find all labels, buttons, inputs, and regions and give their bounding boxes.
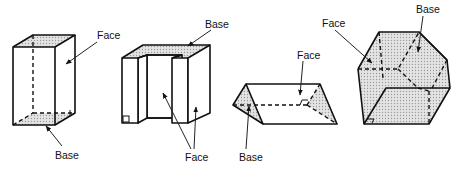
hexagonal-prism <box>335 16 450 124</box>
rectangular-prism <box>13 35 97 146</box>
prism-drawings <box>0 0 463 172</box>
label-base-u-shaped: Base <box>205 19 229 30</box>
prism-diagram: Face Base Base Face Face Base Face Base <box>0 0 463 172</box>
label-base-rectangular: Base <box>55 150 79 161</box>
u-shaped-prism <box>122 30 211 149</box>
label-face-rectangular: Face <box>97 30 120 41</box>
label-face-u-shaped: Face <box>185 152 208 163</box>
label-base-hexagonal: Base <box>416 4 440 15</box>
label-face-hexagonal: Face <box>322 18 345 29</box>
label-face-triangular: Face <box>297 50 320 61</box>
triangular-prism <box>233 61 337 149</box>
label-base-triangular: Base <box>239 152 263 163</box>
